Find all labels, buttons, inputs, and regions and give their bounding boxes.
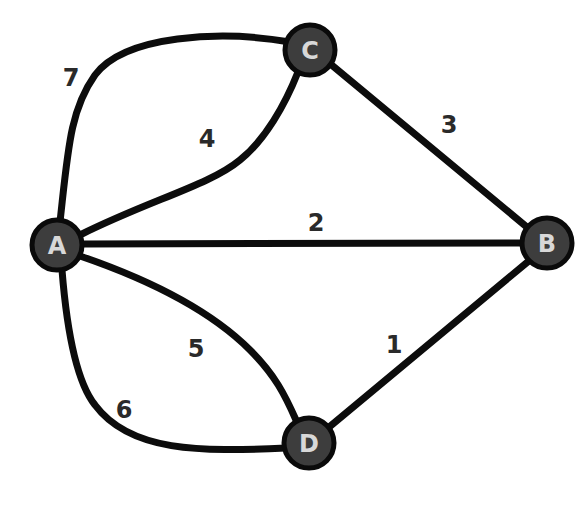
edges — [60, 36, 530, 449]
graph-svg: 1 2 3 4 5 6 7 A B C D — [0, 0, 586, 508]
edge-d-b-1 — [328, 260, 530, 428]
edge-weight-3: 3 — [441, 111, 458, 139]
node-c-label: C — [301, 37, 319, 65]
node-b: B — [522, 218, 572, 268]
edge-weight-5: 5 — [188, 335, 205, 363]
edge-a-b-2 — [82, 243, 522, 244]
edge-weight-2: 2 — [308, 209, 325, 237]
node-d: D — [284, 418, 334, 468]
node-a: A — [32, 220, 82, 270]
node-a-label: A — [48, 232, 67, 260]
graph-diagram: 1 2 3 4 5 6 7 A B C D — [0, 0, 586, 508]
edge-weight-7: 7 — [63, 64, 80, 92]
node-b-label: B — [538, 230, 556, 258]
edge-weight-6: 6 — [116, 396, 133, 424]
edge-a-c-4 — [80, 72, 298, 235]
edge-weight-4: 4 — [199, 125, 216, 153]
edge-c-b-3 — [328, 62, 528, 228]
node-c: C — [285, 25, 335, 75]
edge-weight-1: 1 — [386, 331, 403, 359]
node-d-label: D — [299, 430, 319, 458]
